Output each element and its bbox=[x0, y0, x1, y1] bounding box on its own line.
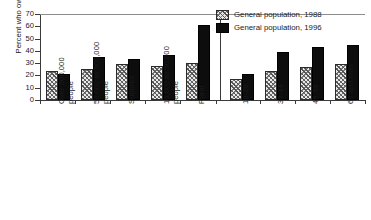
y-axis-tick bbox=[35, 63, 40, 64]
x-axis-tick bbox=[110, 100, 111, 104]
x-axis-category-label: 50,000 to 500,000 people bbox=[93, 0, 110, 104]
x-axis-category-label: 45-59 bbox=[312, 0, 321, 104]
bar-1988 bbox=[46, 71, 58, 100]
x-axis-category-label: 60 and over bbox=[347, 0, 356, 104]
x-axis-tick bbox=[365, 100, 366, 104]
x-axis-category-label: Over 500,000 people bbox=[58, 0, 75, 104]
x-axis-tick bbox=[40, 100, 41, 104]
legend-swatch-1996-icon bbox=[216, 23, 229, 33]
x-axis-category-label: 10,000 to 50,000 people bbox=[163, 0, 180, 104]
y-axis-tick bbox=[35, 39, 40, 40]
y-axis-tick-label: 40 bbox=[16, 47, 34, 55]
y-axis-tick-label: 30 bbox=[16, 59, 34, 67]
x-axis-category-label: 18-29 bbox=[242, 0, 251, 104]
y-axis-tick-label: 20 bbox=[16, 71, 34, 79]
bar-chart: Percent who own guns 010203040506070 Gen… bbox=[0, 0, 371, 220]
x-axis-category-label: Rural bbox=[198, 0, 207, 104]
y-axis-tick bbox=[35, 26, 40, 27]
y-axis-line bbox=[40, 14, 41, 100]
y-axis-tick-label: 10 bbox=[16, 84, 34, 92]
x-axis-tick bbox=[180, 100, 181, 104]
x-axis-tick bbox=[216, 100, 217, 104]
y-axis-tick-label: 70 bbox=[16, 10, 34, 18]
y-axis-tick-label: 60 bbox=[16, 22, 34, 30]
bar-1988 bbox=[116, 64, 128, 100]
legend-swatch-1988-icon bbox=[216, 10, 229, 20]
x-axis-tick bbox=[260, 100, 261, 104]
y-axis-tick bbox=[35, 75, 40, 76]
bar-1988 bbox=[81, 69, 93, 100]
y-axis-tick bbox=[35, 88, 40, 89]
y-axis-tick bbox=[35, 51, 40, 52]
y-axis-tick-label: 0 bbox=[16, 96, 34, 104]
x-axis-tick bbox=[145, 100, 146, 104]
y-axis-tick-label: 50 bbox=[16, 35, 34, 43]
x-axis-tick bbox=[75, 100, 76, 104]
legend-item: General population, 1996 bbox=[216, 21, 366, 34]
y-axis-tick bbox=[35, 14, 40, 15]
legend: General population, 1988 General populat… bbox=[216, 8, 366, 34]
x-axis-tick bbox=[330, 100, 331, 104]
x-axis-category-label: Suburbs bbox=[128, 0, 137, 104]
x-axis-category-label: 30-44 bbox=[277, 0, 286, 104]
x-axis-tick bbox=[295, 100, 296, 104]
legend-item: General population, 1988 bbox=[216, 8, 366, 21]
